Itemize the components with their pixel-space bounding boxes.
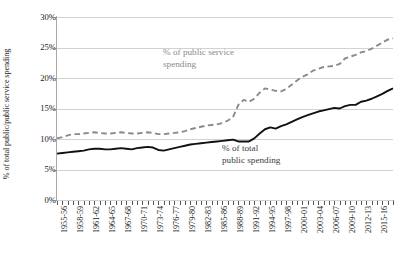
x-tick-mark (249, 201, 250, 205)
x-tick-mark (206, 201, 207, 205)
y-tick-label: 0% (4, 196, 56, 205)
x-tick-mark (377, 201, 378, 205)
x-tick-label: 1958-59 (76, 206, 85, 254)
x-tick-mark (174, 201, 175, 205)
x-tick-mark (57, 201, 58, 205)
x-tick-mark (361, 201, 362, 205)
x-tick-mark (105, 201, 106, 205)
x-tick-label: 2000-01 (300, 206, 309, 254)
x-tick-mark (62, 201, 63, 205)
x-tick-mark (324, 201, 325, 205)
y-tick-label: 15% (4, 104, 56, 113)
x-tick-mark (254, 201, 255, 205)
x-tick-mark (164, 201, 165, 205)
x-tick-mark (121, 201, 122, 205)
x-tick-label: 1991-92 (252, 206, 261, 254)
x-tick-mark (260, 201, 261, 205)
x-tick-mark (132, 201, 133, 205)
y-tick-label: 10% (4, 135, 56, 144)
x-tick-mark (382, 201, 383, 205)
x-tick-mark (302, 201, 303, 205)
x-tick-mark (180, 201, 181, 205)
y-tick-mark (52, 170, 56, 171)
x-tick-label: 2003-04 (316, 206, 325, 254)
x-tick-label: 1964-65 (108, 206, 117, 254)
series-lines (57, 17, 393, 200)
x-tick-mark (238, 201, 239, 205)
x-tick-mark (286, 201, 287, 205)
y-tick-mark (52, 48, 56, 49)
chart-container: % of total public/public service spendin… (0, 0, 396, 258)
x-tick-label: 1994-95 (268, 206, 277, 254)
x-tick-mark (185, 201, 186, 205)
y-tick-mark (52, 200, 56, 201)
x-tick-mark (318, 201, 319, 205)
x-tick-label: 2009-10 (348, 206, 357, 254)
x-tick-mark (196, 201, 197, 205)
x-tick-label: 1985-86 (220, 206, 229, 254)
x-tick-mark (393, 201, 394, 205)
x-tick-mark (222, 201, 223, 205)
y-tick-mark (52, 109, 56, 110)
x-tick-mark (233, 201, 234, 205)
x-tick-mark (153, 201, 154, 205)
y-tick-label: 20% (4, 74, 56, 83)
x-tick-mark (297, 201, 298, 205)
y-tick-label: 5% (4, 165, 56, 174)
x-tick-mark (126, 201, 127, 205)
x-tick-label: 1973-74 (156, 206, 165, 254)
x-tick-label: 2015-16 (380, 206, 389, 254)
annotation-public-service-spending: % of public service spending (163, 47, 234, 70)
x-tick-mark (356, 201, 357, 205)
x-tick-label: 1967-68 (124, 206, 133, 254)
x-tick-mark (68, 201, 69, 205)
x-tick-mark (388, 201, 389, 205)
x-tick-mark (350, 201, 351, 205)
x-tick-mark (94, 201, 95, 205)
x-tick-label: 2012-13 (364, 206, 373, 254)
x-tick-mark (137, 201, 138, 205)
x-tick-mark (308, 201, 309, 205)
x-tick-mark (345, 201, 346, 205)
x-tick-mark (329, 201, 330, 205)
x-tick-mark (110, 201, 111, 205)
x-tick-mark (217, 201, 218, 205)
x-tick-mark (169, 201, 170, 205)
x-tick-label: 1997-98 (284, 206, 293, 254)
x-tick-mark (244, 201, 245, 205)
x-tick-label: 1979-80 (188, 206, 197, 254)
x-tick-mark (89, 201, 90, 205)
x-tick-label: 1970-71 (140, 206, 149, 254)
x-tick-mark (84, 201, 85, 205)
y-tick-mark (52, 17, 56, 18)
x-tick-mark (212, 201, 213, 205)
x-tick-mark (73, 201, 74, 205)
x-tick-label: 1988-89 (236, 206, 245, 254)
x-tick-mark (100, 201, 101, 205)
x-tick-mark (281, 201, 282, 205)
annotation-total-public-spending: % of total public spending (222, 143, 280, 166)
x-tick-mark (372, 201, 373, 205)
x-tick-mark (158, 201, 159, 205)
x-tick-mark (313, 201, 314, 205)
x-tick-mark (334, 201, 335, 205)
x-tick-mark (366, 201, 367, 205)
x-tick-mark (265, 201, 266, 205)
y-tick-label: 25% (4, 43, 56, 52)
x-tick-mark (276, 201, 277, 205)
x-tick-mark (292, 201, 293, 205)
x-tick-mark (116, 201, 117, 205)
x-tick-label: 1976-77 (172, 206, 181, 254)
y-axis-ticks: 0%5%10%15%20%25%30% (0, 17, 56, 200)
x-tick-mark (340, 201, 341, 205)
x-tick-mark (142, 201, 143, 205)
x-tick-mark (148, 201, 149, 205)
y-tick-label: 30% (4, 13, 56, 22)
x-tick-mark (270, 201, 271, 205)
x-tick-label: 1982-83 (204, 206, 213, 254)
y-tick-mark (52, 78, 56, 79)
x-tick-label: 2006-07 (332, 206, 341, 254)
x-axis-labels: 1955-561958-591961-621964-651967-681970-… (57, 206, 393, 258)
x-tick-mark (201, 201, 202, 205)
y-tick-mark (52, 139, 56, 140)
